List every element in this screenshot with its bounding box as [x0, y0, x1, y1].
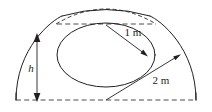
height-arrowhead-bottom: [34, 93, 41, 102]
outer-arc-left: [16, 16, 62, 100]
outer-radius-arrowhead: [173, 54, 181, 60]
inner-radius-arrowhead: [141, 50, 149, 57]
outer-arc-right: [150, 16, 196, 100]
geometry-svg: 1 m 2 m h: [0, 0, 212, 112]
inner-radius-label: 1 m: [125, 26, 142, 38]
height-label: h: [28, 62, 34, 74]
dashed-top-arc: [56, 9, 156, 24]
outer-radius-label: 2 m: [153, 74, 170, 86]
geometry-figure: 1 m 2 m h: [0, 0, 212, 112]
